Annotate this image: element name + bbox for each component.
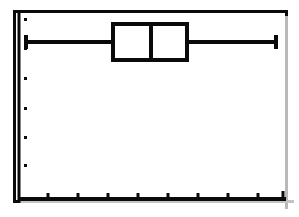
y-axis-tick (24, 18, 27, 21)
y-axis-tick (24, 136, 27, 139)
plot-window-frame (13, 10, 288, 203)
y-axis-tick (24, 164, 27, 167)
y-axis-tick (24, 107, 27, 110)
y-axis-tick (24, 77, 27, 80)
calculator-screen (0, 0, 299, 217)
box-plot-graphic (16, 13, 291, 206)
plot-area (16, 13, 285, 200)
